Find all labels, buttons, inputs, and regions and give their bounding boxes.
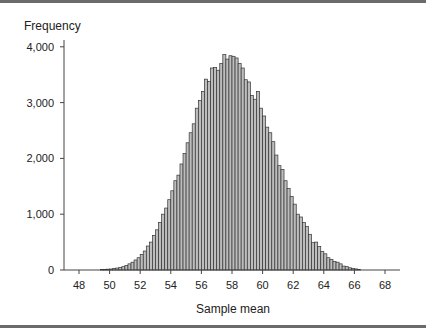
x-tick-label: 60 <box>256 279 268 291</box>
histogram-bar <box>229 56 232 270</box>
x-tick-label: 48 <box>73 279 85 291</box>
histogram-bar <box>339 264 342 270</box>
histogram-bar <box>149 242 152 270</box>
histogram-bar <box>318 247 321 270</box>
x-tick-label: 52 <box>134 279 146 291</box>
histogram-bar <box>201 91 204 270</box>
histogram-bar <box>134 260 137 270</box>
histogram-bar <box>122 267 125 270</box>
histogram-bar <box>266 127 269 270</box>
histogram-bar <box>140 254 143 270</box>
histogram-bar <box>284 181 287 270</box>
histogram-bar <box>174 181 177 270</box>
x-tick-label: 66 <box>348 279 360 291</box>
histogram-bar <box>177 175 180 270</box>
histogram-bar <box>345 267 348 270</box>
histogram-bar <box>137 258 140 270</box>
histogram-bar <box>235 58 238 270</box>
histogram-bar <box>183 153 186 270</box>
histogram-bar <box>272 142 275 270</box>
histogram-bar <box>162 214 165 270</box>
histogram-chart: 01,0002,0003,0004,0004850525456586062646… <box>0 0 426 335</box>
histogram-bar <box>302 223 305 270</box>
histogram-bar <box>128 264 131 270</box>
histogram-bar <box>287 189 290 270</box>
histogram-bar <box>336 262 339 270</box>
histogram-bar <box>330 259 333 270</box>
histogram-bar <box>275 155 278 270</box>
histogram-bar <box>296 214 299 270</box>
histogram-bar <box>146 246 149 270</box>
histogram-bar <box>168 200 171 270</box>
histogram-bar <box>241 68 244 270</box>
histogram-bar <box>192 124 195 270</box>
histogram-bar <box>232 56 235 270</box>
x-tick-label: 68 <box>379 279 391 291</box>
histogram-bar <box>281 170 284 270</box>
histogram-bar <box>250 95 253 270</box>
y-tick-label: 2,000 <box>26 152 54 164</box>
histogram-bar <box>256 91 259 270</box>
x-axis-label: Sample mean <box>0 302 426 316</box>
histogram-bar <box>305 226 308 270</box>
histogram-bar <box>327 258 330 270</box>
histogram-bar <box>321 252 324 270</box>
x-tick-label: 62 <box>287 279 299 291</box>
histogram-bar <box>171 191 174 270</box>
histogram-bar <box>315 242 318 270</box>
histogram-bar <box>263 116 266 270</box>
histogram-bar <box>278 166 281 270</box>
histogram-bar <box>220 64 223 270</box>
histogram-bar <box>223 55 226 270</box>
histogram-bar <box>244 80 247 270</box>
histogram-bar <box>165 208 168 270</box>
histogram-bar <box>260 108 263 270</box>
histogram-bar <box>143 251 146 270</box>
histogram-bar <box>131 262 134 270</box>
histogram-bar <box>247 82 250 270</box>
y-tick-label: 0 <box>48 264 54 276</box>
histogram-bar <box>299 217 302 270</box>
histogram-bar <box>211 68 214 270</box>
x-tick-label: 54 <box>165 279 177 291</box>
histogram-bar <box>198 100 201 270</box>
histogram-bar <box>125 266 128 270</box>
histogram-bar <box>159 223 162 270</box>
y-tick-label: 3,000 <box>26 97 54 109</box>
histogram-bar <box>186 143 189 270</box>
histogram-bar <box>204 79 207 270</box>
y-tick-label: 4,000 <box>26 41 54 53</box>
histogram-bar <box>189 133 192 270</box>
histogram-bar <box>180 164 183 270</box>
y-tick-label: 1,000 <box>26 208 54 220</box>
histogram-bar <box>214 67 217 270</box>
x-tick-label: 58 <box>226 279 238 291</box>
histogram-bar <box>269 133 272 270</box>
histogram-bar <box>290 196 293 270</box>
histogram-bar <box>293 204 296 270</box>
histogram-bar <box>238 64 241 270</box>
histogram-bar <box>253 99 256 270</box>
x-tick-label: 56 <box>195 279 207 291</box>
histogram-bar <box>324 254 327 270</box>
x-tick-label: 64 <box>318 279 330 291</box>
histogram-bar <box>208 81 211 270</box>
histogram-bar <box>309 234 312 270</box>
histogram-bar <box>156 230 159 270</box>
histogram-bar <box>195 108 198 270</box>
histogram-bar <box>226 59 229 270</box>
bottom-border <box>0 325 426 328</box>
x-tick-label: 50 <box>103 279 115 291</box>
histogram-bar <box>312 243 315 270</box>
histogram-bar <box>342 266 345 270</box>
histogram-bar <box>333 262 336 270</box>
histogram-bar <box>152 235 155 270</box>
histogram-bar <box>217 70 220 270</box>
